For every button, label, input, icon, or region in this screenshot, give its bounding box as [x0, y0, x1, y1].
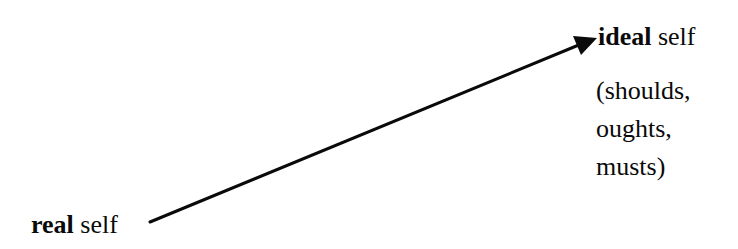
ideal-self-plain: self [658, 22, 696, 51]
real-to-ideal-arrow-line [150, 42, 586, 222]
attribute-line-shoulds: (shoulds, [596, 72, 691, 110]
attribute-line-oughts: oughts, [596, 110, 691, 148]
ideal-self-label: ideal self [598, 24, 696, 50]
attribute-line-musts: musts) [596, 148, 691, 186]
diagram-canvas: ideal self (shoulds, oughts, musts) real… [0, 0, 738, 249]
real-self-emphasis: real [31, 210, 74, 239]
real-self-plain: self [80, 210, 118, 239]
ideal-self-attributes: (shoulds, oughts, musts) [596, 72, 691, 186]
ideal-self-emphasis: ideal [598, 22, 651, 51]
real-self-label: real self [31, 212, 118, 238]
